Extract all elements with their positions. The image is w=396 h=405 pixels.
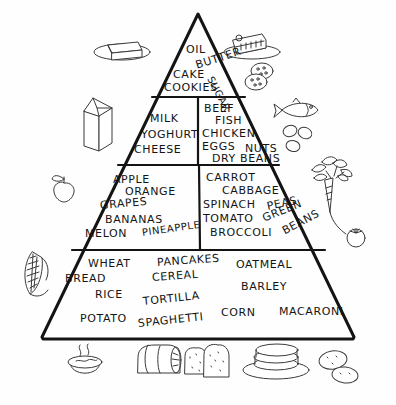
food-pyramid-diagram: OIL BUTTER CAKE COOKIES SUGAR MILK YOGHU…: [0, 0, 396, 405]
pyramid-item-milk: MILK: [150, 113, 178, 124]
tomato-illustration: [347, 229, 365, 247]
cookies-illustration: [245, 63, 273, 90]
carrot-illustration: [312, 157, 352, 234]
pyramid-item-rice: RICE: [95, 289, 123, 300]
pyramid-item-bananas: BANANAS: [105, 214, 163, 225]
pyramid-item-fish: FISH: [215, 115, 242, 126]
pyramid-item-oil: OIL: [186, 44, 206, 55]
pyramid-item-tomato: TOMATO: [203, 213, 254, 224]
pyramid-item-bread: BREAD: [65, 273, 106, 284]
bread-slices-illustration: [185, 344, 229, 377]
corn-illustration: [25, 252, 48, 296]
pyramid-item-cake: CAKE: [173, 69, 205, 80]
pyramid-item-carrot: CARROT: [206, 172, 255, 183]
pyramid-item-cheese: CHEESE: [134, 144, 181, 155]
pyramid-item-spinach: SPINACH: [203, 199, 256, 210]
milk-carton-illustration: [84, 98, 112, 151]
pyramid-item-cereal: CEREAL: [152, 269, 199, 283]
pancake-stack-illustration: [243, 344, 309, 379]
pyramid-item-broccoli: BROCCOLI: [210, 227, 272, 238]
pyramid-item-yoghurt: YOGHURT: [141, 129, 198, 140]
pyramid-item-wheat: WHEAT: [88, 258, 131, 269]
pyramid-item-eggs: EGGS: [202, 141, 235, 152]
bread-loaf-illustration: [138, 345, 181, 373]
nuts-illustration: [282, 124, 314, 153]
pyramid-item-dry-beans: DRY BEANS: [212, 153, 280, 164]
pyramid-item-beef: BEEF: [204, 103, 234, 114]
pyramid-item-cabbage: CABBAGE: [222, 185, 279, 196]
apple-illustration: [52, 176, 74, 202]
fish-illustration: [274, 98, 318, 117]
pyramid-item-oatmeal: OATMEAL: [236, 259, 292, 270]
pyramid-item-barley: BARLEY: [241, 281, 287, 292]
potatoes-illustration: [318, 349, 359, 384]
pyramid-item-potato: POTATO: [80, 313, 127, 324]
pyramid-item-corn: CORN: [221, 307, 256, 318]
pyramid-item-macaroni: MACARONI: [279, 306, 344, 317]
pyramid-item-chicken: CHICKEN: [202, 128, 255, 139]
pyramid-item-melon: MELON: [85, 228, 127, 239]
soup-bowl-illustration: [68, 344, 102, 373]
butter-on-dish-illustration: [94, 42, 150, 60]
pyramid-item-apple: APPLE: [113, 174, 150, 185]
